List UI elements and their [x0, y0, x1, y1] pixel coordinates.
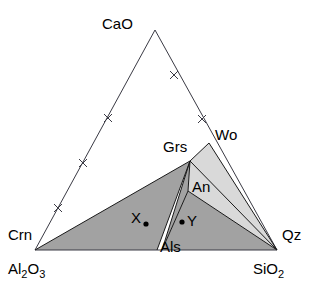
label-crn: Crn — [8, 226, 32, 243]
ternary-diagram-canvas: CaO Crn Qz Grs Wo An Als X Y Al2O3 SiO2 — [0, 0, 313, 290]
label-sio2-sub-2: 2 — [278, 268, 284, 280]
point-x-marker — [143, 221, 148, 226]
label-al2o3-al: Al — [8, 260, 21, 277]
point-y-marker — [179, 219, 184, 224]
label-sio2: SiO2 — [253, 260, 284, 280]
label-cao: CaO — [102, 15, 133, 32]
label-grs: Grs — [163, 138, 187, 155]
label-sio2-sio: SiO — [253, 260, 278, 277]
label-al2o3-sub-3: 3 — [39, 268, 45, 280]
ternary-phase-diagram: CaO Crn Qz Grs Wo An Als X Y Al2O3 SiO2 — [0, 0, 313, 290]
tick-left-3 — [54, 204, 62, 212]
tick-right-1 — [170, 71, 178, 79]
tick-left-2 — [79, 159, 87, 167]
label-bulk-y: Y — [187, 212, 197, 229]
label-wo: Wo — [215, 126, 237, 143]
label-bulk-x: X — [131, 209, 141, 226]
label-qz: Qz — [282, 226, 301, 243]
label-als: Als — [160, 238, 181, 255]
label-an: An — [192, 178, 210, 195]
label-al2o3-o: O — [27, 260, 39, 277]
label-al2o3: Al2O3 — [8, 260, 45, 280]
